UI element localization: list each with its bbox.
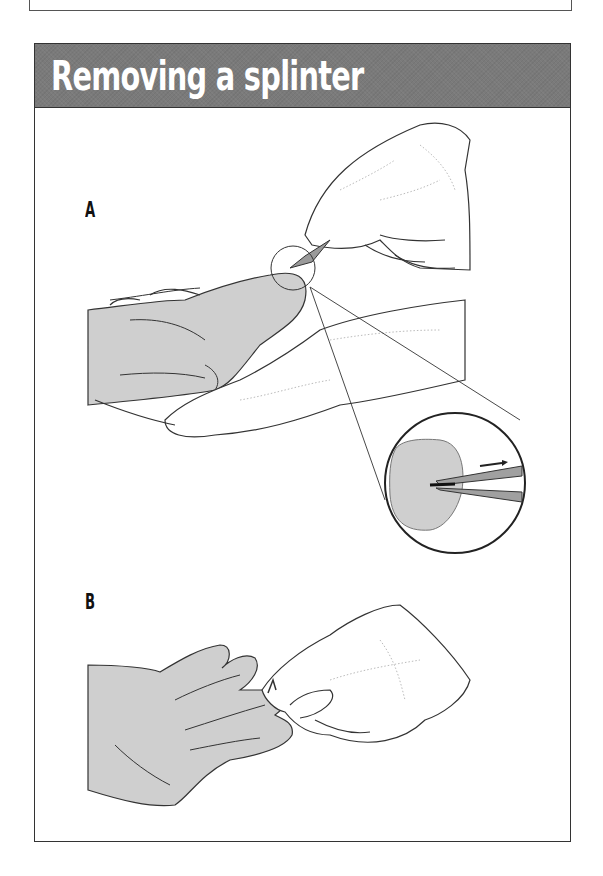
patient-open-hand-icon <box>88 645 292 806</box>
helper-hand-squeezing-icon <box>262 605 470 742</box>
illustration-step-b <box>0 0 603 876</box>
